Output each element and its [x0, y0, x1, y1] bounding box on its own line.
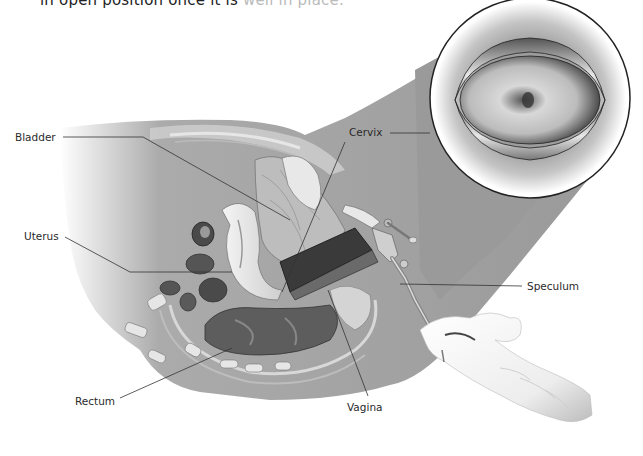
- label-bladder: Bladder: [15, 131, 56, 143]
- label-rectum: Rectum: [75, 395, 115, 407]
- gloved-hand: [420, 313, 592, 422]
- anatomy-illustration: [0, 0, 643, 456]
- label-cervix: Cervix: [349, 126, 382, 138]
- cervix-inset: [430, 0, 630, 198]
- label-speculum: Speculum: [527, 280, 579, 292]
- label-vagina: Vagina: [347, 401, 382, 413]
- label-uterus: Uterus: [24, 230, 59, 242]
